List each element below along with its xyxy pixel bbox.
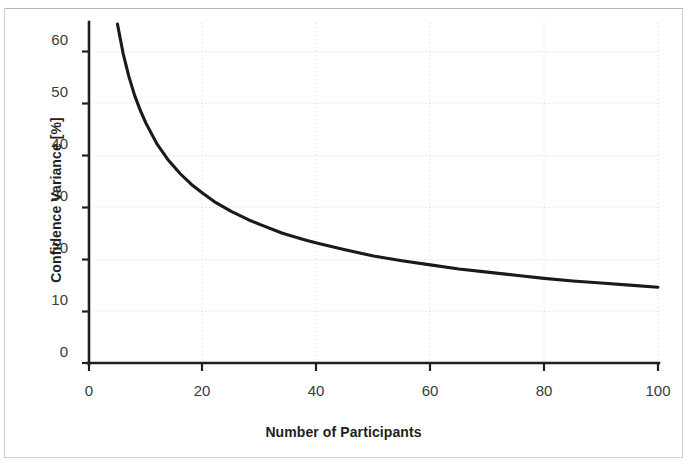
y-axis-title: Confidence Variance [%]: [48, 40, 64, 360]
x-tick-label-20: 20: [177, 382, 227, 399]
x-tick-label-40: 40: [291, 382, 341, 399]
horizontal-gridlines: [89, 52, 658, 312]
x-axis-title: Number of Participants: [0, 424, 687, 440]
x-tick-label-100: 100: [633, 382, 683, 399]
x-tick-label-80: 80: [519, 382, 569, 399]
chart-figure: 0 10 20 30 40 50 60 0 20 40 60 80 100 Nu…: [0, 0, 687, 466]
x-tick-label-60: 60: [405, 382, 455, 399]
confidence-variance-curve: [117, 24, 658, 287]
x-tick-label-0: 0: [64, 382, 114, 399]
